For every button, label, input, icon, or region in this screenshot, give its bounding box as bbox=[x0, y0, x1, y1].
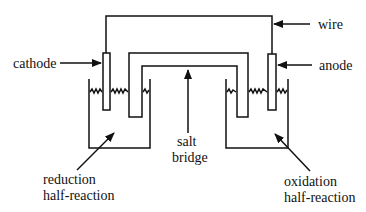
reduction-label-1: reduction bbox=[43, 172, 96, 187]
wire bbox=[106, 16, 272, 54]
salt-bridge-label-1: salt bbox=[177, 134, 197, 149]
oxidation-label-2: half-reaction bbox=[284, 190, 356, 205]
wire-label: wire bbox=[318, 17, 343, 32]
cathode-label: cathode bbox=[13, 56, 57, 71]
reduction-label-2: half-reaction bbox=[43, 188, 115, 203]
cathode-electrode bbox=[103, 53, 110, 110]
electrochemical-cell-diagram: wire cathode anode salt bridge reduction… bbox=[0, 0, 366, 212]
anode-electrode bbox=[268, 54, 276, 110]
salt-bridge-label-2: bridge bbox=[172, 150, 208, 165]
oxidation-arrow bbox=[275, 134, 310, 171]
liquid-surface-left bbox=[90, 89, 149, 93]
reduction-arrow bbox=[77, 133, 114, 170]
oxidation-label-1: oxidation bbox=[284, 174, 337, 189]
anode-label: anode bbox=[319, 58, 352, 73]
liquid-surface-right bbox=[227, 89, 287, 93]
left-beaker bbox=[89, 79, 150, 148]
